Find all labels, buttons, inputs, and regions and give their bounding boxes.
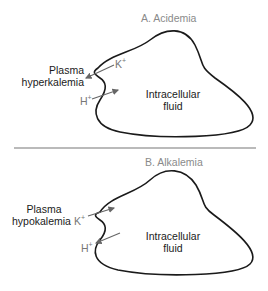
panel-a-plasma-line2: hyperkalemia [20,76,84,88]
panel-a-title: A. Acidemia [141,12,196,24]
ion-k-symbol: K [74,215,81,227]
ion-k-charge: + [81,214,85,221]
panel-b-cell-label: Intracellular fluid [140,230,206,254]
panel-b-plasma-line1: Plasma [12,203,76,215]
panel-b-title: B. Alkalemia [145,156,203,168]
cell-outline-b [95,171,253,275]
panel-a-plasma-line1: Plasma [20,64,84,76]
ion-h-charge: + [88,94,92,101]
ion-k-symbol: K [115,58,122,70]
ion-h-charge: + [89,241,93,248]
panel-a-plasma-label: Plasma hyperkalemia [20,64,84,88]
panel-b-ion-k: K+ [74,214,85,227]
ion-h-symbol: H [81,242,89,254]
panel-a-ion-h: H+ [80,94,92,107]
ion-k-charge: + [122,57,126,64]
ion-h-symbol: H [80,95,88,107]
panel-a-ion-k: K+ [115,57,126,70]
cell-outline-a [94,31,253,137]
h-efflux-arrow-b [96,233,120,243]
panel-a-cell-line1: Intracellular [140,88,206,100]
panel-b-cell-line2: fluid [140,242,206,254]
diagram-canvas [0,0,268,291]
panel-a-cell-label: Intracellular fluid [140,88,206,112]
panel-b-cell-line1: Intracellular [140,230,206,242]
panel-a-cell-line2: fluid [140,100,206,112]
panel-b-ion-h: H+ [81,241,93,254]
